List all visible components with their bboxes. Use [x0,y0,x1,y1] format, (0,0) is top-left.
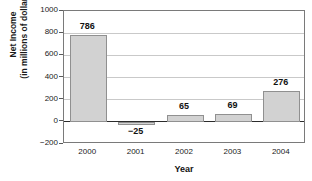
y-axis-title-line1: Net Income [8,12,18,58]
y-tick-label-400: 400 [18,73,58,81]
bar-2001 [118,122,155,125]
y-tick-label--200: −200 [18,139,58,147]
y-tick-label-1000: 1000 [18,6,58,14]
gridline-800 [64,33,304,34]
bar-2003 [215,114,252,122]
bar-chart: Net Income (in millions of dollars) 1000… [0,0,312,181]
value-label-2003: 69 [202,101,262,110]
value-label-2004: 276 [251,78,311,87]
bar-2004 [263,91,300,122]
y-tick-label-0: 0 [18,117,58,125]
x-tick-label-2004: 2004 [251,148,311,156]
x-axis-title: Year [63,164,305,174]
value-label-2001: −25 [106,127,166,136]
y-tick-label-600: 600 [18,50,58,58]
y-tick-label-200: 200 [18,95,58,103]
value-label-2000: 786 [57,22,117,31]
y-tick-label-800: 800 [18,28,58,36]
bar-2000 [70,35,107,122]
bar-2002 [167,115,204,122]
